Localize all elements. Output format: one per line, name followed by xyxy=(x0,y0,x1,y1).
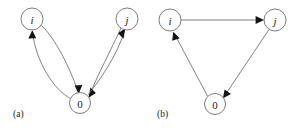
edge-b-i-to-j xyxy=(181,16,264,24)
panel-b: i j 0 (b) xyxy=(157,9,286,120)
node-a-0-label: 0 xyxy=(77,98,83,110)
node-b-0-label: 0 xyxy=(212,99,218,111)
edge-a-i-to-0 xyxy=(42,26,83,94)
node-a-i[interactable]: i xyxy=(21,8,43,30)
node-b-0[interactable]: 0 xyxy=(205,94,226,115)
node-a-0[interactable]: 0 xyxy=(70,93,91,114)
edge-a-0-to-i xyxy=(28,30,70,98)
panel-b-caption: (b) xyxy=(157,109,168,120)
node-b-i-label: i xyxy=(168,15,171,27)
edge-b-0-to-i xyxy=(172,32,207,96)
arrowhead-into-i-from-0 xyxy=(28,30,36,38)
arrowhead-into-j-from-i xyxy=(256,16,264,24)
node-b-i[interactable]: i xyxy=(159,9,181,31)
arrowhead-into-0-from-j xyxy=(223,90,231,99)
node-b-j[interactable]: j xyxy=(264,9,286,31)
node-a-i-label: i xyxy=(30,14,33,26)
panel-a-caption: (a) xyxy=(13,109,24,120)
graph-canvas: i j 0 (a) xyxy=(0,0,296,128)
panel-a: i j 0 (a) xyxy=(13,8,138,120)
arrowhead-into-i-from-0 xyxy=(172,32,180,41)
edge-b-j-to-0 xyxy=(223,30,269,99)
figure-container: i j 0 (a) xyxy=(0,0,296,128)
node-a-j[interactable]: j xyxy=(116,8,138,30)
